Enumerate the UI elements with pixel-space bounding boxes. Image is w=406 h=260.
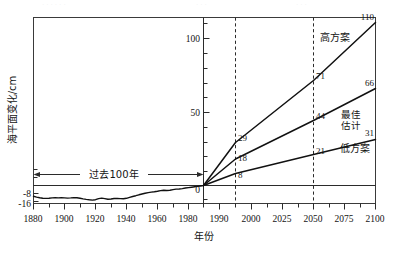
scenario-best-line2: 估计 [341,120,361,131]
y-tick-label-minus8: -8 [23,189,31,199]
value-text: 18 [238,153,248,163]
value-label-best-2010: 18 [238,153,248,163]
x-tick-label-text: 1990 [210,214,229,224]
y-axis-ticks [204,24,210,200]
scenario-low-text: 低方案 [340,142,370,154]
value-text: 29 [238,133,248,143]
y-tick-label-text: -16 [18,199,31,209]
value-text: 8 [238,170,243,180]
value-label-low-2060: 21 [316,146,325,156]
y-tick-label-minus16: -16 [18,199,31,209]
x-tick-label-text: 1980 [179,214,198,224]
sea-level-change-figure: 100 50 0 -8 -16 [0,0,406,260]
value-label-high-2100: 110 [361,12,375,22]
x-tick-labels-projection: 1990 2000 2025 2050 2075 2100 [210,214,385,224]
y-tick-label-text: -8 [23,189,31,199]
x-tick-label-text: 1900 [55,214,74,224]
value-label-low-2010: 8 [238,170,243,180]
value-text: 71 [316,71,325,81]
y-tick-label-text: 50 [191,108,201,118]
x-tick-label-text: 1960 [148,214,167,224]
y-axis-title: 海平面变化/cm [6,76,18,145]
scenario-best-line1: 最佳 [341,109,361,120]
x-tick-label-text: 2000 [242,214,261,224]
scenario-label-high: 高方案 [320,31,350,43]
past-100-years-annotation: 过去100年 [34,168,204,180]
chart-svg: 100 50 0 -8 -16 [0,0,406,260]
y-tick-label-text: 100 [186,34,201,44]
x-tick-label-text: 2050 [304,214,323,224]
x-tick-label-text: 2025 [273,214,292,224]
value-text: 66 [365,78,375,88]
value-text: 44 [316,111,326,121]
scenario-high-text: 高方案 [320,31,350,43]
x-axis-ticks-historical [34,204,204,210]
historical-sea-level-curve [34,186,204,201]
x-tick-label-text: 2075 [335,214,354,224]
value-text: 31 [365,128,374,138]
x-axis-title: 年份 [194,230,214,242]
x-tick-label-text: 1880 [24,214,43,224]
x-tick-label-text: 2100 [366,214,385,224]
value-text: 21 [316,146,325,156]
value-label-high-2010: 29 [238,133,248,143]
x-axis-title-text: 年份 [194,230,214,242]
past-100-years-label: 过去100年 [89,168,138,180]
y-tick-label-50: 50 [191,108,201,118]
value-label-high-2060: 71 [316,71,325,81]
value-label-low-2100: 31 [365,128,374,138]
value-label-best-2060: 44 [316,111,326,121]
scenario-label-best: 最佳 估计 [341,109,361,131]
x-tick-label-text: 1940 [117,214,136,224]
y-tick-label-100: 100 [186,34,201,44]
x-tick-label-text: 1920 [86,214,105,224]
value-label-best-2100: 66 [365,78,375,88]
x-tick-labels-historical: 1880 1900 1920 1940 1960 1980 [24,214,198,224]
projection-line-best [204,89,376,186]
value-text: 110 [361,12,375,22]
arrow-head-right [197,172,204,177]
y-axis-title-text: 海平面变化/cm [6,76,18,145]
x-axis-ticks-projection [220,204,376,210]
arrow-head-left [34,172,41,177]
scenario-label-low: 低方案 [340,142,370,154]
